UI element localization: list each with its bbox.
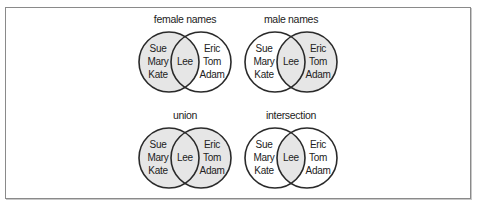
venn-panel-female-names: female names Sue Mary Kate Lee Eric Tom … bbox=[139, 13, 231, 92]
name-label: Mary bbox=[253, 152, 274, 163]
name-label: Kate bbox=[254, 165, 274, 176]
name-label: Sue bbox=[256, 139, 274, 150]
name-label: Eric bbox=[310, 43, 326, 54]
name-label-overlap: Lee bbox=[283, 56, 300, 67]
name-label: Adam bbox=[306, 69, 331, 80]
name-label: Eric bbox=[310, 139, 326, 150]
name-label: Eric bbox=[204, 43, 220, 54]
name-label: Tom bbox=[203, 56, 221, 67]
venn-diagram-figure: female names Sue Mary Kate Lee Eric Tom … bbox=[0, 0, 478, 203]
name-label: Tom bbox=[309, 152, 327, 163]
name-label-overlap: Lee bbox=[283, 152, 300, 163]
name-label: Tom bbox=[203, 152, 221, 163]
panel-title: female names bbox=[154, 13, 216, 25]
panel-title: male names bbox=[264, 13, 318, 25]
name-label: Kate bbox=[148, 165, 168, 176]
venn-panel-union: union Sue Mary Kate Lee Eric Tom Adam bbox=[139, 109, 231, 188]
panel-title: union bbox=[173, 109, 198, 121]
name-label: Adam bbox=[200, 69, 225, 80]
name-label: Tom bbox=[309, 56, 327, 67]
name-label-overlap: Lee bbox=[177, 152, 194, 163]
panel-title: intersection bbox=[266, 109, 317, 121]
name-label-overlap: Lee bbox=[177, 56, 194, 67]
name-label: Sue bbox=[256, 43, 274, 54]
name-label: Adam bbox=[306, 165, 331, 176]
name-label: Mary bbox=[253, 56, 274, 67]
venn-panel-intersection: intersection Sue Mary Kate Lee Eric Tom … bbox=[245, 109, 337, 188]
name-label: Kate bbox=[148, 69, 168, 80]
name-label: Sue bbox=[150, 139, 168, 150]
venn-panel-male-names: male names Sue Mary Kate Lee Eric Tom Ad… bbox=[245, 13, 337, 92]
name-label: Kate bbox=[254, 69, 274, 80]
name-label: Eric bbox=[204, 139, 220, 150]
name-label: Adam bbox=[200, 165, 225, 176]
name-label: Mary bbox=[147, 56, 168, 67]
name-label: Mary bbox=[147, 152, 168, 163]
name-label: Sue bbox=[150, 43, 168, 54]
